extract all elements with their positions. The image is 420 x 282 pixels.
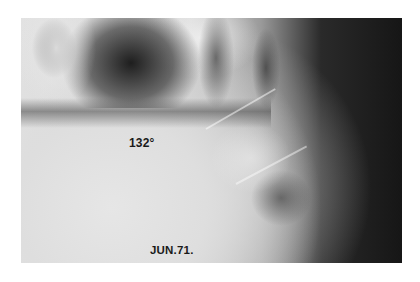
radiograph-image	[21, 18, 402, 263]
angle-annotation: 132°	[129, 136, 155, 150]
vertebrae-region	[171, 18, 311, 258]
date-annotation: JUN.71.	[150, 244, 194, 256]
